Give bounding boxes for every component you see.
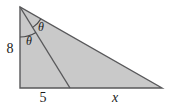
side-label-base-right: x	[111, 90, 119, 105]
side-label-base-left: 5	[40, 90, 47, 105]
geometry-figure: θ θ 8 5 x	[0, 0, 174, 105]
angle-label-theta-upper: θ	[38, 20, 44, 34]
side-label-left-leg: 8	[7, 41, 14, 56]
angle-label-theta-lower: θ	[26, 34, 32, 48]
triangle-diagram-canvas: θ θ 8 5 x	[0, 0, 174, 105]
